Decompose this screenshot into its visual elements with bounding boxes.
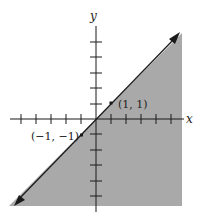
point-label-neg1-neg1: (−1, −1): [31, 130, 79, 143]
x-axis-label: x: [186, 112, 193, 126]
point-label-1-1: (1, 1): [118, 98, 148, 111]
inequality-graph: y x (1, 1) (−1, −1): [0, 0, 200, 224]
y-axis-label: y: [89, 9, 97, 23]
point-neg1-neg1: [80, 134, 83, 137]
point-1-1: [110, 102, 113, 105]
